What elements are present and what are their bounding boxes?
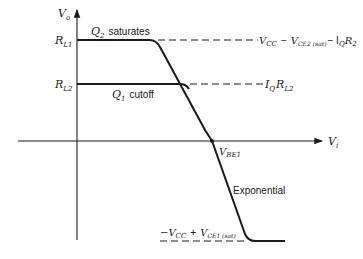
q1-cutoff-label: Q1cutoff [112, 88, 154, 103]
vbe1-label: VBE1 [219, 146, 241, 159]
transfer-characteristic-diagram: Vo Vi RL1 RL2 Q2saturates Q1cutoff VBE1 … [0, 0, 363, 259]
mid-level-expression: IQRL2 [264, 78, 294, 93]
y-axis-label: Vo [58, 7, 70, 22]
rl2-label: RL2 [54, 78, 73, 93]
rl1-label: RL1 [54, 34, 72, 49]
exponential-label: Exponential [233, 185, 285, 196]
top-level-expression: VCC−VCE2 (sat)− IQR2 [259, 35, 357, 48]
x-axis-label: Vi [328, 135, 338, 150]
vbe1-point [210, 139, 214, 143]
q2-saturates-label: Q2saturates [91, 25, 150, 40]
bottom-level-expression: −VCC+VCE1 (sat) [160, 227, 237, 240]
